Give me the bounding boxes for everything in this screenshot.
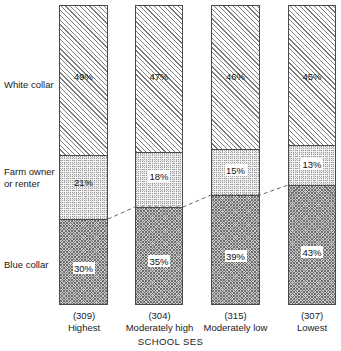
stacked-bar-chart: White collar Farm owner or renter Blue c… [0,0,341,351]
tick-label: Lowest [272,322,341,334]
value-label-farm-owner: 15% [224,164,246,176]
tick-lowest: (307) Lowest [272,310,341,334]
bar-moderately-high: 47% 18% 35% [135,5,183,305]
segment-white-collar: 45% [288,5,336,146]
segment-blue-collar: 35% [135,207,183,305]
tick-count: (315) [188,310,283,322]
x-axis-title: SCHOOL SES [0,336,341,347]
value-label-white-collar: 49% [72,70,94,82]
value-label-farm-owner: 21% [72,176,94,188]
tick-label: Moderately low [188,322,283,334]
segment-farm-owner: 13% [288,145,336,186]
segment-white-collar: 46% [211,5,260,150]
row-label-farm-owner: Farm owner or renter [4,166,58,189]
value-label-blue-collar: 43% [301,246,323,258]
segment-farm-owner: 21% [59,155,108,220]
row-label-blue-collar: Blue collar [4,259,58,271]
row-label-white-collar: White collar [4,79,58,91]
segment-farm-owner: 15% [211,149,260,196]
value-label-white-collar: 45% [301,70,323,82]
segment-blue-collar: 43% [288,185,336,305]
segment-white-collar: 49% [59,5,108,156]
value-label-farm-owner: 18% [148,170,170,182]
bar-lowest: 45% 13% 43% [288,5,336,305]
value-label-blue-collar: 39% [224,250,246,262]
segment-farm-owner: 18% [135,152,183,208]
bar-moderately-low: 46% 15% 39% [211,5,260,305]
value-label-white-collar: 47% [148,70,170,82]
value-label-white-collar: 46% [224,70,246,82]
value-label-blue-collar: 35% [148,255,170,267]
tick-moderately-low: (315) Moderately low [188,310,283,334]
bar-highest: 49% 21% 30% [59,5,108,305]
segment-blue-collar: 39% [211,195,260,305]
segment-white-collar: 47% [135,5,183,153]
value-label-blue-collar: 30% [72,262,94,274]
value-label-farm-owner: 13% [301,158,323,170]
segment-blue-collar: 30% [59,219,108,305]
tick-count: (307) [272,310,341,322]
